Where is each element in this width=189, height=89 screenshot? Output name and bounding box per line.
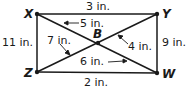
label-x: X	[23, 7, 34, 21]
leader-bw	[108, 61, 124, 62]
measure-yb: 4 in.	[128, 40, 152, 53]
quadrilateral-diagram: X Y Z W B 3 in. 2 in. 11 in. 9 in. 5 in.…	[0, 0, 189, 89]
measure-zw: 2 in.	[84, 76, 108, 89]
measure-xz: 11 in.	[2, 36, 33, 49]
arrowhead-xb	[64, 21, 68, 25]
measure-zb: 7 in.	[47, 34, 71, 47]
segment-zw	[37, 72, 157, 73]
label-z: Z	[23, 66, 33, 80]
point-z	[35, 70, 39, 74]
measure-xy: 3 in.	[86, 0, 110, 13]
point-x	[35, 12, 39, 16]
point-y	[155, 12, 159, 16]
point-b	[96, 41, 100, 45]
arrowhead-bw	[123, 59, 127, 63]
measure-bw: 6 in.	[80, 55, 104, 68]
measure-yw: 9 in.	[162, 36, 186, 49]
label-y: Y	[162, 7, 172, 21]
label-w: W	[162, 67, 176, 81]
measure-xb: 5 in.	[80, 17, 104, 30]
point-w	[155, 71, 159, 75]
